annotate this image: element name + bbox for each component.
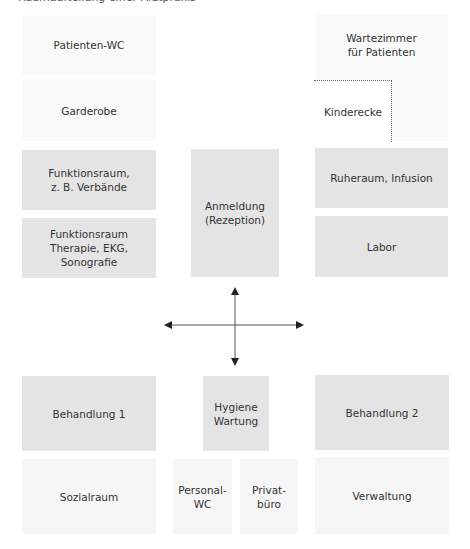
room-label: Behandlung 2 xyxy=(346,406,419,420)
room-label: Verwaltung xyxy=(352,489,411,503)
room-label: Behandlung 1 xyxy=(53,407,126,421)
room-hygiene: Hygiene Wartung xyxy=(203,376,269,451)
room-behandlung-1: Behandlung 1 xyxy=(22,376,156,451)
room-sozialraum: Sozialraum xyxy=(22,459,156,534)
room-label: Personal- WC xyxy=(178,483,226,511)
room-privatbuero: Privat- büro xyxy=(240,459,298,534)
room-behandlung-2: Behandlung 2 xyxy=(315,375,449,450)
room-verwaltung: Verwaltung xyxy=(315,457,449,534)
room-label: Hygiene Wartung xyxy=(214,400,259,428)
room-personal-wc: Personal- WC xyxy=(173,459,232,534)
room-label: Privat- büro xyxy=(252,483,286,511)
room-label: Sozialraum xyxy=(60,490,119,504)
